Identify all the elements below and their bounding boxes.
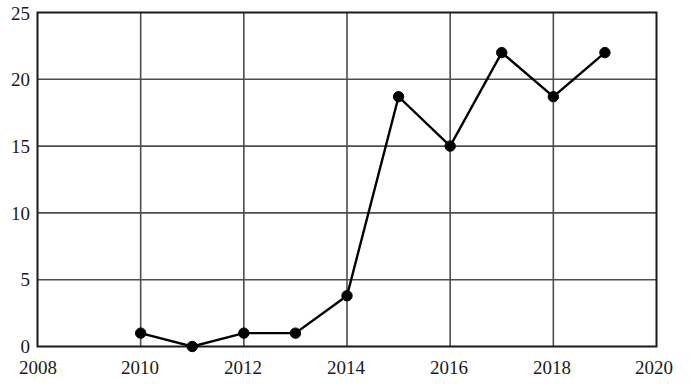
line-chart: 25 20 15 10 5 0 2008 2010 2012 2014 2016… — [0, 0, 690, 384]
y-tick-label-5: 5 — [0, 270, 30, 289]
x-tick-label-2018: 2018 — [514, 358, 590, 377]
y-tick-label-15: 15 — [0, 137, 30, 156]
data-series-line — [141, 53, 605, 347]
x-tick-label-2020: 2020 — [618, 358, 690, 377]
x-tick-label-2014: 2014 — [308, 358, 384, 377]
x-tick-label-2010: 2010 — [102, 358, 178, 377]
x-tick-label-2016: 2016 — [411, 358, 487, 377]
chart-plot-area — [0, 0, 690, 384]
y-tick-label-0: 0 — [0, 337, 30, 356]
y-tick-label-10: 10 — [0, 204, 30, 223]
y-tick-label-20: 20 — [0, 70, 30, 89]
x-tick-label-2008: 2008 — [0, 358, 76, 377]
y-tick-label-25: 25 — [0, 4, 30, 23]
x-tick-label-2012: 2012 — [205, 358, 281, 377]
